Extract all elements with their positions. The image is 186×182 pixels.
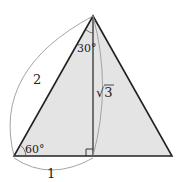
label-hypotenuse: 2 — [33, 72, 41, 87]
label-base: 1 — [47, 166, 55, 181]
label-bottom-angle: 60° — [25, 143, 45, 156]
label-top-angle: 30° — [77, 42, 97, 55]
label-altitude: √3 — [96, 85, 113, 100]
triangle-diagram: 2 1 √3 30° 60° — [0, 0, 186, 182]
diagram-canvas: 2 1 √3 30° 60° — [0, 0, 186, 182]
